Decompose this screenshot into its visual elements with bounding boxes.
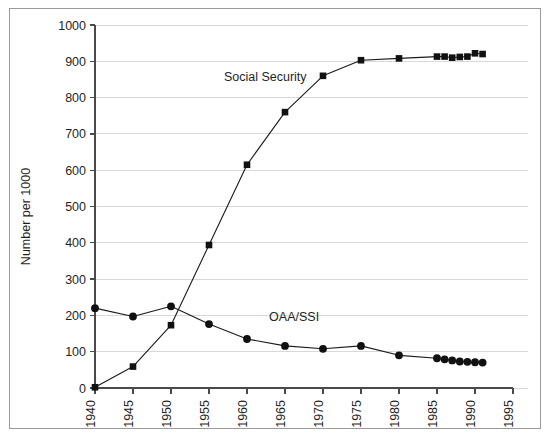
x-tick-label: 1955 (198, 400, 212, 428)
data-point-marker (206, 242, 213, 249)
data-point-marker (167, 302, 175, 310)
data-point-marker (464, 358, 472, 366)
data-point-marker (243, 335, 251, 343)
data-series (91, 50, 486, 391)
y-tick-label: 800 (65, 91, 86, 105)
x-tick-label: 1975 (350, 400, 364, 428)
data-point-marker (441, 53, 448, 60)
line-chart: 01002003004005006007008009001000 1940194… (0, 0, 551, 446)
data-point-marker (244, 161, 251, 168)
data-point-marker (441, 355, 449, 363)
y-tick-label: 400 (65, 236, 86, 250)
data-point-marker (396, 55, 403, 62)
x-tick-label: 1960 (236, 400, 250, 428)
y-axis-title-text: Number per 1000 (19, 168, 33, 265)
x-tick-labels: 1940194519501955196019651970197519801985… (84, 400, 516, 428)
y-tick-label: 0 (79, 382, 86, 396)
series-label-2: OAA/SSI (269, 310, 319, 324)
x-tick-label: 1995 (502, 400, 516, 428)
x-tick-label: 1990 (464, 400, 478, 428)
data-point-marker (320, 73, 327, 80)
gridlines (95, 25, 528, 388)
data-point-marker (472, 50, 479, 57)
y-tick-label: 200 (65, 309, 86, 323)
y-tick-label: 900 (65, 55, 86, 69)
data-point-marker (168, 322, 175, 329)
x-axis (95, 388, 513, 394)
data-point-marker (282, 109, 289, 116)
x-tick-label: 1950 (160, 400, 174, 428)
data-point-marker (130, 363, 137, 370)
data-point-marker (479, 51, 486, 58)
y-tick-label: 700 (65, 127, 86, 141)
x-tick-label: 1945 (122, 400, 136, 428)
data-point-marker (205, 320, 213, 328)
y-tick-label: 100 (65, 345, 86, 359)
series-label-1: Social Security (224, 70, 307, 84)
series-annotations: Social SecurityOAA/SSI (224, 70, 319, 324)
x-tick-label: 1980 (388, 400, 402, 428)
data-point-marker (92, 384, 99, 391)
x-tick-label: 1970 (312, 400, 326, 428)
y-tick-label: 300 (65, 273, 86, 287)
x-tick-label: 1985 (426, 400, 440, 428)
y-axis-title: Number per 1000 (19, 168, 33, 265)
data-point-marker (449, 54, 456, 61)
data-point-marker (448, 357, 456, 365)
data-point-marker (434, 53, 441, 60)
data-point-marker (464, 53, 471, 60)
x-tick-label: 1965 (274, 400, 288, 428)
x-tick-label: 1940 (84, 400, 98, 428)
y-tick-labels: 01002003004005006007008009001000 (58, 19, 86, 396)
data-point-marker (456, 358, 464, 366)
data-point-marker (357, 342, 365, 350)
y-tick-label: 1000 (58, 19, 86, 33)
data-point-marker (129, 313, 137, 321)
data-point-marker (457, 54, 464, 61)
data-point-marker (91, 304, 99, 312)
data-point-marker (433, 354, 441, 362)
data-point-marker (358, 57, 365, 64)
y-tick-label: 600 (65, 164, 86, 178)
data-point-marker (319, 345, 327, 353)
data-point-marker (471, 358, 479, 366)
y-tick-label: 500 (65, 200, 86, 214)
data-point-marker (281, 342, 289, 350)
series-line (95, 53, 483, 387)
data-point-marker (395, 351, 403, 359)
series-1 (92, 50, 486, 391)
y-axis (90, 25, 95, 388)
chart-figure: 01002003004005006007008009001000 1940194… (0, 0, 551, 446)
data-point-marker (479, 359, 487, 367)
